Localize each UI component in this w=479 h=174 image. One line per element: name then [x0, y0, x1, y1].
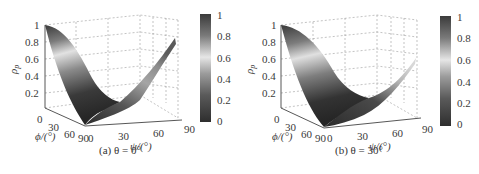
svg-text:30: 30 — [357, 130, 369, 142]
colorbar-ticks: 1 0.8 0.6 0.4 0.2 0 — [217, 9, 231, 127]
z-axis-ticks: 1 0.8 0.6 0.4 0.2 — [25, 19, 40, 99]
svg-text:60: 60 — [392, 127, 404, 139]
svg-text:90: 90 — [315, 132, 327, 144]
svg-text:60: 60 — [153, 127, 165, 139]
svg-text:0.8: 0.8 — [262, 36, 276, 48]
caption-a: (a) θ = 0° — [0, 144, 240, 156]
svg-text:0.2: 0.2 — [457, 97, 471, 109]
svg-text:0.2: 0.2 — [262, 87, 276, 99]
svg-text:30: 30 — [118, 130, 130, 142]
svg-text:60: 60 — [64, 128, 76, 140]
svg-text:0: 0 — [457, 118, 463, 130]
svg-text:0.4: 0.4 — [262, 70, 276, 82]
svg-text:0.8: 0.8 — [457, 32, 471, 44]
panel-a: 1 0.8 0.6 0.4 0.2 ρp 0 30 60 90 ϕ/(°) 0 … — [0, 0, 240, 174]
svg-text:1: 1 — [457, 11, 463, 23]
colorbar-ticks: 1 0.8 0.6 0.4 0.2 0 — [457, 11, 471, 130]
z-axis-label: ρp — [243, 65, 257, 75]
svg-text:0: 0 — [88, 132, 94, 144]
z-axis-label: ρp — [7, 65, 21, 75]
svg-text:90: 90 — [422, 123, 434, 135]
svg-text:0.4: 0.4 — [457, 76, 471, 88]
svg-text:0.6: 0.6 — [457, 54, 471, 66]
svg-text:0.6: 0.6 — [262, 53, 276, 65]
y-axis-label: ϕ/(°) — [272, 130, 293, 143]
colorbar — [440, 16, 451, 126]
svg-text:0.2: 0.2 — [217, 94, 231, 106]
svg-text:90: 90 — [184, 123, 196, 135]
svg-text:1: 1 — [34, 19, 40, 31]
svg-text:1: 1 — [271, 19, 277, 31]
svg-text:0.6: 0.6 — [217, 52, 231, 64]
svg-text:0: 0 — [274, 113, 280, 125]
svg-text:0.8: 0.8 — [217, 30, 231, 42]
z-axis-ticks: 1 0.8 0.6 0.4 0.2 — [262, 19, 277, 99]
svg-text:0: 0 — [217, 115, 223, 127]
caption-b: (b) θ = 30° — [239, 144, 479, 156]
svg-text:0.8: 0.8 — [25, 36, 39, 48]
y-axis-label: ϕ/(°) — [35, 130, 56, 143]
panel-b: 1 0.8 0.6 0.4 0.2 ρp 0 30 60 90 ϕ/(°) 0 … — [239, 0, 479, 174]
colorbar — [200, 14, 211, 122]
svg-text:0.4: 0.4 — [25, 70, 39, 82]
svg-text:60: 60 — [301, 128, 313, 140]
svg-text:0: 0 — [37, 113, 43, 125]
svg-text:0: 0 — [327, 132, 333, 144]
svg-text:0.6: 0.6 — [25, 53, 39, 65]
svg-text:0.2: 0.2 — [25, 87, 39, 99]
svg-text:1: 1 — [217, 9, 223, 21]
svg-text:0.4: 0.4 — [217, 73, 231, 85]
